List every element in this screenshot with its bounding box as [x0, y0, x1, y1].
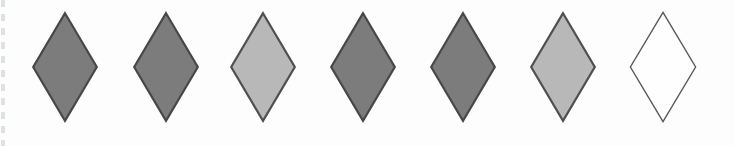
diamond-6: [529, 11, 597, 123]
light-gray-diamond-icon: [529, 11, 597, 123]
diamond-5: [429, 11, 497, 123]
light-gray-diamond-icon: [229, 11, 297, 123]
diamond-7: [629, 11, 697, 123]
diamond-1: [31, 11, 99, 123]
white-outline-diamond-icon: [629, 11, 697, 123]
diamond-figure: [0, 0, 734, 146]
diamond-3: [229, 11, 297, 123]
dark-gray-diamond-icon: [329, 11, 397, 123]
dark-gray-diamond-icon: [429, 11, 497, 123]
diamond-2: [132, 11, 200, 123]
dark-gray-diamond-icon: [31, 11, 99, 123]
diamond-4: [329, 11, 397, 123]
dark-gray-diamond-icon: [132, 11, 200, 123]
page-edge-scan-artifact: [1, 0, 5, 146]
